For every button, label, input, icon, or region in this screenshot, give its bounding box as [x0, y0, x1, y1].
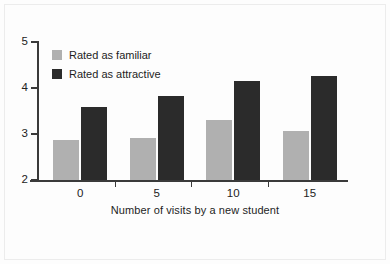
x-axis-line: [30, 180, 348, 182]
y-axis-tick-label: 2: [6, 174, 28, 186]
legend: Rated as familiarRated as attractive: [52, 47, 161, 85]
x-axis-tick-label: 5: [137, 188, 177, 200]
y-axis-tick-label: 3: [6, 128, 28, 140]
legend-item: Rated as attractive: [52, 66, 161, 82]
bar-attractive-10: [234, 81, 260, 180]
bar-chart-figure: 2345 051015 Rated as familiarRated as at…: [0, 0, 390, 264]
y-axis-tick: [31, 133, 38, 134]
bar-familiar-5: [130, 138, 156, 180]
y-axis-tick: [31, 179, 38, 180]
x-axis-tick: [191, 181, 192, 187]
x-axis-title: Number of visits by a new student: [0, 204, 390, 216]
y-axis-tick-label-wrap: 5: [4, 36, 28, 48]
y-axis-tick-label: 4: [6, 82, 28, 94]
bar-attractive-5: [158, 96, 184, 180]
x-axis-tick-label: 15: [290, 188, 330, 200]
legend-label: Rated as familiar: [69, 50, 152, 61]
bar-familiar-10: [206, 120, 232, 180]
bar-familiar-15: [283, 131, 309, 180]
x-axis-tick-label: 10: [213, 188, 253, 200]
legend-label: Rated as attractive: [69, 69, 161, 80]
y-axis-tick: [31, 41, 38, 42]
bar-familiar-0: [53, 140, 79, 180]
y-axis-tick-label-wrap: 3: [4, 128, 28, 140]
x-axis-tick-label: 0: [60, 188, 100, 200]
y-axis-tick-label: 5: [6, 36, 28, 48]
x-axis-tick: [115, 181, 116, 187]
x-axis-tick: [268, 181, 269, 187]
legend-swatch-familiar: [52, 50, 62, 60]
legend-item: Rated as familiar: [52, 47, 161, 63]
y-axis-tick-label-wrap: 2: [4, 174, 28, 186]
legend-swatch-attractive: [52, 69, 62, 79]
bar-attractive-15: [311, 76, 337, 180]
y-axis-tick: [31, 87, 38, 88]
bar-attractive-0: [81, 107, 107, 180]
y-axis-tick-label-wrap: 4: [4, 82, 28, 94]
